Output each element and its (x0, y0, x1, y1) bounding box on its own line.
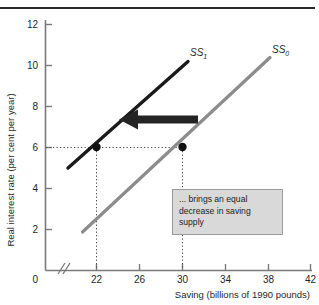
x-tick-label-34: 34 (220, 274, 232, 285)
chart-canvas: 12 10 8 6 4 2 0 22 26 30 34 38 42 Saving… (0, 0, 319, 305)
x-axis-title: Saving (billions of 1990 pounds) (175, 289, 310, 300)
y-tick-label-12: 12 (27, 19, 39, 30)
x-axis-ticks (97, 264, 311, 271)
curve-label-ss0: SS0 (272, 44, 289, 57)
x-tick-label-42: 42 (305, 274, 317, 285)
y-tick-label-6: 6 (32, 142, 38, 153)
curve-label-ss1: SS1 (190, 47, 207, 60)
x-tick-label-38: 38 (263, 274, 275, 285)
y-axis-ticks (46, 25, 53, 230)
y-axis-title: Real interest rate (per cent per year) (5, 93, 16, 246)
x-tick-label-26: 26 (134, 274, 146, 285)
annotation-note-text: ... brings an equal decrease in saving s… (179, 194, 277, 229)
chart-figure: 12 10 8 6 4 2 0 22 26 30 34 38 42 Saving… (0, 0, 319, 305)
y-tick-label-10: 10 (27, 60, 39, 71)
y-tick-label-8: 8 (32, 101, 38, 112)
y-tick-label-2: 2 (32, 224, 38, 235)
annotation-note-box: ... brings an equal decrease in saving s… (172, 189, 283, 235)
equilibrium-marker-new (92, 143, 100, 151)
x-tick-label-22: 22 (91, 274, 103, 285)
x-axis-break-icon (58, 263, 70, 274)
y-tick-label-0: 0 (32, 274, 38, 285)
x-tick-label-30: 30 (177, 274, 189, 285)
equilibrium-marker-original (178, 143, 186, 151)
guide-lines (46, 148, 183, 271)
y-tick-label-4: 4 (32, 183, 38, 194)
